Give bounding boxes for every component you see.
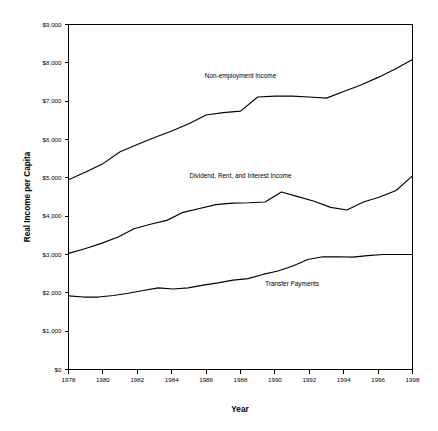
- y-tick-label: $6,000: [43, 136, 62, 143]
- y-axis-title: Real Income per Capita: [23, 151, 32, 242]
- x-tick-label: 1996: [371, 376, 385, 383]
- series-line: [69, 176, 413, 253]
- y-tick-label: $8,000: [43, 59, 62, 66]
- x-axis-title: Year: [231, 405, 249, 414]
- x-tick-label: 1982: [130, 376, 144, 383]
- x-tick-label: 1994: [337, 376, 351, 383]
- series-label: Transfer Payments: [265, 280, 319, 288]
- y-tick-label: $7,000: [43, 97, 62, 104]
- x-tick-label: 1984: [165, 376, 179, 383]
- series-label: Non-employment Income: [205, 72, 277, 80]
- x-tick-label: 1992: [302, 376, 316, 383]
- series-line: [69, 255, 413, 298]
- y-tick-label: $9,000: [43, 21, 62, 28]
- series-annotations: Non-employment IncomeDividend, Rent, and…: [190, 72, 319, 288]
- y-axis-ticks: $0$1,000$2,000$3,000$4,000$5,000$6,000$7…: [43, 21, 69, 373]
- y-tick-label: $3,000: [43, 251, 62, 258]
- y-tick-label: $4,000: [43, 212, 62, 219]
- line-chart: $0$1,000$2,000$3,000$4,000$5,000$6,000$7…: [0, 0, 438, 431]
- y-tick-label: $1,000: [43, 327, 62, 334]
- x-tick-label: 1998: [406, 376, 420, 383]
- series-label: Dividend, Rent, and Interest Income: [190, 172, 292, 179]
- y-tick-label: $5,000: [43, 174, 62, 181]
- x-tick-label: 1988: [234, 376, 248, 383]
- x-tick-label: 1986: [199, 376, 213, 383]
- x-axis-ticks: 1978198019821984198619881990199219941996…: [62, 370, 420, 384]
- y-tick-label: $2,000: [43, 289, 62, 296]
- x-tick-label: 1978: [62, 376, 76, 383]
- chart-container: $0$1,000$2,000$3,000$4,000$5,000$6,000$7…: [0, 0, 438, 431]
- x-tick-label: 1990: [268, 376, 282, 383]
- y-tick-label: $0: [55, 366, 62, 373]
- x-tick-label: 1980: [96, 376, 110, 383]
